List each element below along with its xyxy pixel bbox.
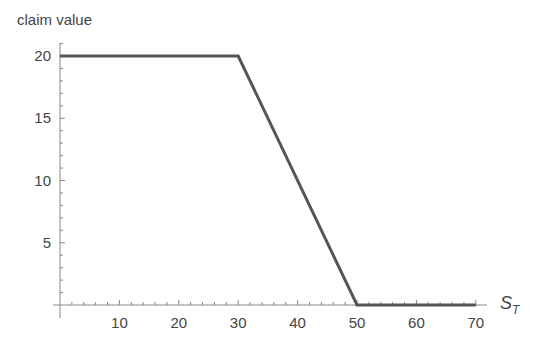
x-tick-label: 40: [289, 314, 306, 331]
series-line: [60, 56, 476, 305]
x-axis-label: ST: [500, 293, 521, 317]
x-tick-label: 20: [170, 314, 187, 331]
x-tick-label: 70: [467, 314, 484, 331]
x-tick-label: 30: [230, 314, 247, 331]
x-tick-label: 50: [349, 314, 366, 331]
x-tick-label: 10: [111, 314, 128, 331]
x-tick-label: 60: [408, 314, 425, 331]
y-tick-label: 15: [34, 109, 51, 126]
y-tick-label: 10: [34, 172, 51, 189]
y-tick-label: 20: [34, 47, 51, 64]
x-axis-label-subscript: T: [512, 303, 521, 317]
chart-plot-area: 102030405060705101520ST: [0, 0, 548, 348]
y-tick-label: 5: [43, 234, 51, 251]
